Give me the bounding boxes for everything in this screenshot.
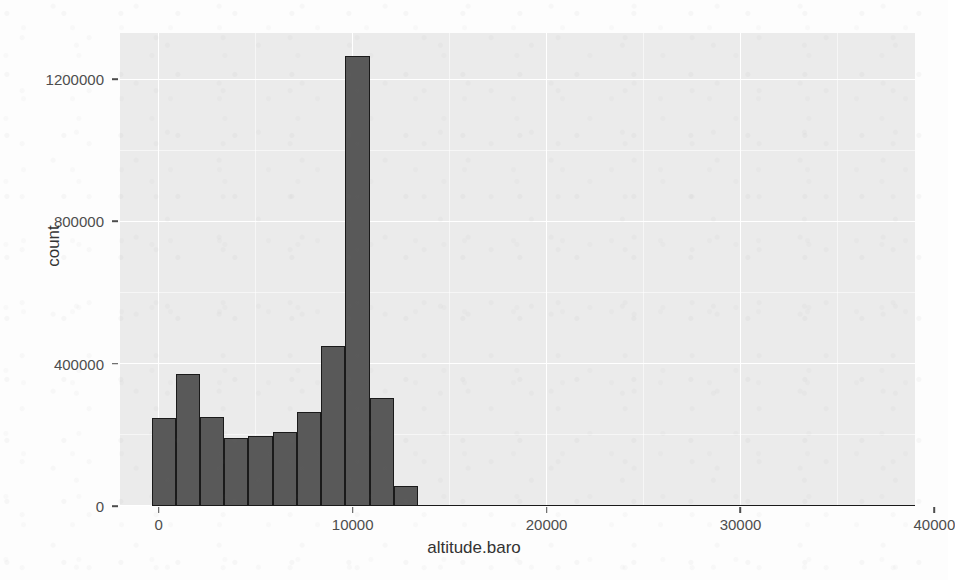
x-axis-tick-mark [740, 507, 742, 513]
x-axis-tick-mark [352, 507, 354, 513]
x-axis-tick-mark [546, 507, 548, 513]
x-axis-tick-mark [934, 507, 936, 513]
gridline-minor-vertical [449, 33, 450, 506]
x-axis-tick-label: 40000 [914, 516, 955, 533]
x-axis-tick-label: 20000 [526, 516, 568, 533]
y-axis-tick-mark [112, 505, 118, 507]
histogram-bar [248, 436, 272, 506]
x-axis-tick-label: 30000 [720, 516, 762, 533]
y-axis-tick-mark [112, 221, 118, 223]
plot-panel [120, 33, 915, 506]
x-axis-tick-label: 10000 [332, 516, 374, 533]
histogram-bar [394, 486, 418, 506]
histogram-bar [321, 346, 345, 506]
x-axis-tick-label: 0 [155, 516, 163, 533]
histogram-bar [370, 398, 394, 506]
y-axis-tick-mark [112, 363, 118, 365]
histogram-bar [273, 432, 297, 506]
gridline-major-vertical [546, 33, 547, 506]
y-axis-title: count [44, 186, 64, 306]
gridline-major-horizontal [120, 221, 915, 222]
histogram-bar [176, 374, 200, 506]
y-axis-tick-label: 1200000 [46, 71, 104, 88]
y-axis-tick-mark [112, 78, 118, 80]
gridline-major-horizontal [120, 363, 915, 364]
gridline-major-vertical [740, 33, 741, 506]
y-axis-tick-label: 400000 [54, 355, 104, 372]
gridline-minor-horizontal [120, 150, 915, 151]
histogram-bar [152, 418, 176, 506]
gridline-minor-vertical [837, 33, 838, 506]
gridline-minor-horizontal [120, 434, 915, 435]
gridline-minor-horizontal [120, 292, 915, 293]
histogram-bar [297, 412, 321, 506]
y-axis-tick-label: 0 [96, 498, 104, 515]
gridline-minor-vertical [643, 33, 644, 506]
histogram-bar [224, 438, 248, 506]
gridline-major-horizontal [120, 79, 915, 80]
zero-baseline [152, 505, 915, 506]
x-axis-title: altitude.baro [0, 538, 948, 558]
x-axis-tick-mark [158, 507, 160, 513]
histogram-bar [200, 417, 224, 506]
histogram-bar [345, 56, 369, 506]
